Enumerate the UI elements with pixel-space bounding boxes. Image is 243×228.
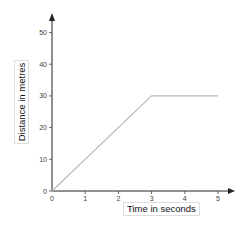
ticks: 01234501020304050 (39, 29, 220, 202)
x-axis-label: Time in seconds (123, 202, 200, 216)
y-axis-label: Distance in metres (14, 60, 29, 144)
y-tick-label: 40 (39, 61, 47, 68)
x-axis-arrow-icon (228, 188, 235, 194)
y-tick-label: 30 (39, 92, 47, 99)
x-tick-label: 4 (183, 195, 187, 202)
x-tick-label: 3 (150, 195, 154, 202)
x-tick-label: 2 (116, 195, 120, 202)
x-tick-label: 1 (83, 195, 87, 202)
x-tick-label: 0 (50, 195, 54, 202)
series-line (52, 96, 218, 191)
x-tick-label: 5 (216, 195, 220, 202)
y-tick-label: 20 (39, 124, 47, 131)
data-series (52, 96, 218, 191)
y-axis-arrow-icon (49, 13, 55, 21)
chart-canvas: 01234501020304050 (0, 0, 243, 228)
y-tick-label: 50 (39, 29, 47, 36)
y-tick-label: 0 (43, 188, 47, 195)
y-axis-label-text: Distance in metres (16, 63, 28, 142)
y-tick-label: 10 (39, 156, 47, 163)
